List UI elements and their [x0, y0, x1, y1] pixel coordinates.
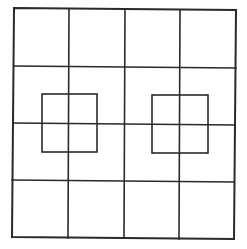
grid-diagram — [0, 0, 247, 249]
